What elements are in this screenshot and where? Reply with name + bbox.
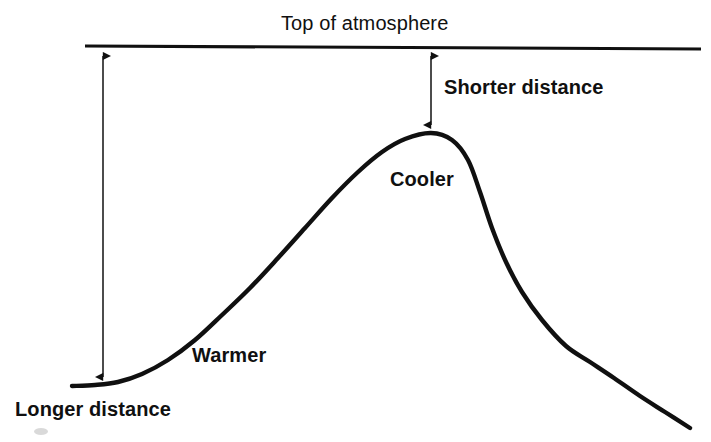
diagram-vector-layer: [0, 0, 711, 442]
label-shorter-distance: Shorter distance: [444, 77, 603, 97]
label-warmer: Warmer: [192, 345, 266, 365]
label-cooler: Cooler: [390, 169, 454, 189]
scan-artifact-smudge: [34, 428, 48, 435]
atmosphere-path-curve: [72, 133, 690, 428]
label-longer-distance: Longer distance: [15, 399, 171, 419]
top-of-atmosphere-line: [85, 46, 701, 49]
diagram-canvas: Top of atmosphere Shorter distance Coole…: [0, 0, 711, 442]
label-top-of-atmosphere: Top of atmosphere: [281, 13, 448, 33]
